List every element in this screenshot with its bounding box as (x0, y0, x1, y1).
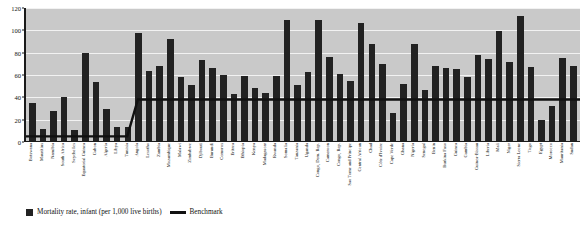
x-label-slot: Tanzania (290, 143, 301, 201)
chart-legend: Mortality rate, infant (per 1,000 live b… (26, 208, 223, 216)
x-axis-tick-label: Sierra Leone (516, 143, 521, 167)
x-label-slot: Benin (428, 143, 439, 201)
x-label-slot: Tunisia (120, 143, 131, 201)
x-axis-tick-label: Sao Tome and Principe (346, 143, 351, 186)
x-label-slot: Comoros (216, 143, 227, 201)
bar-slot (557, 8, 568, 142)
x-axis-tick-label: Equatorial Guinea (81, 143, 86, 177)
bar-slot (504, 8, 515, 142)
bar (103, 109, 110, 143)
bar-slot (356, 8, 367, 142)
x-label-slot: Sao Tome and Principe (343, 143, 354, 201)
x-label-slot: Algeria (99, 143, 110, 201)
x-label-slot: Burundi (205, 143, 216, 201)
x-axis-tick-label: Somalia (282, 143, 287, 158)
bar-slot (473, 8, 484, 142)
bar-slot (462, 8, 473, 142)
x-axis-tick-label: Botswana (28, 143, 33, 161)
x-label-slot: Niger (502, 143, 513, 201)
bar (315, 20, 322, 142)
bar (156, 66, 163, 142)
bar (432, 66, 439, 142)
bar (443, 68, 450, 142)
bar-slot (207, 8, 218, 142)
bar (262, 93, 269, 142)
bar (326, 57, 333, 142)
bar-slot (112, 8, 123, 142)
x-label-slot: Sierra Leone (513, 143, 524, 201)
bar-slot (282, 8, 293, 142)
x-label-slot: Eritrea (227, 143, 238, 201)
y-axis-tick-label: 20 (15, 116, 22, 123)
bar (178, 77, 185, 142)
x-label-slot: Gambia (460, 143, 471, 201)
x-axis-tick-label: Djibouti (198, 143, 203, 158)
bar-slot (420, 8, 431, 142)
bar (358, 23, 365, 142)
bar-slot (313, 8, 324, 142)
x-label-slot: Seychelles (67, 143, 78, 201)
x-label-slot: Malawi (174, 143, 185, 201)
bar-slot (80, 8, 91, 142)
bar-slot (69, 8, 80, 142)
bar-slot (59, 8, 70, 142)
legend-item-series: Mortality rate, infant (per 1,000 live b… (26, 208, 162, 216)
bar (241, 76, 248, 142)
bar-slot (250, 8, 261, 142)
bar (50, 111, 57, 142)
plot-area (24, 8, 580, 142)
bar (231, 94, 238, 142)
x-axis-tick-label: Gambia (463, 143, 468, 158)
x-axis-tick-label: Liberia (484, 143, 489, 156)
x-label-slot: Madagascar (258, 143, 269, 201)
x-axis-tick-label: Madagascar (261, 143, 266, 165)
bar (475, 55, 482, 142)
bar (135, 33, 142, 142)
x-axis-tick-label: Morocco (548, 143, 553, 160)
bar (93, 82, 100, 142)
bar-slot (165, 8, 176, 142)
x-label-slot: Senegal (418, 143, 429, 201)
x-label-slot: Zimbabwe (184, 143, 195, 201)
x-label-slot: Mauritius (36, 143, 47, 201)
x-label-slot: Lesotho (142, 143, 153, 201)
bar (528, 67, 535, 142)
bar-slot (324, 8, 335, 142)
x-label-slot: South Africa (57, 143, 68, 201)
x-label-slot: Egypt (534, 143, 545, 201)
x-label-slot: Kenya (248, 143, 259, 201)
x-axis-tick-label: Chad (367, 143, 372, 153)
x-axis-tick-label: Zambia (155, 143, 160, 157)
x-axis-tick-label: Angola (134, 143, 139, 157)
bar-slot (292, 8, 303, 142)
x-axis-tick-label: Congo, Rep. (335, 143, 340, 166)
bar (559, 58, 566, 142)
y-axis-tick-label: 100 (11, 27, 21, 34)
y-axis-tick-label: 40 (15, 94, 22, 101)
x-label-slot: Côte d'Ivoire (375, 143, 386, 201)
x-axis-tick-label: Sudan (569, 143, 574, 154)
x-axis-tick-label: South Africa (60, 143, 65, 166)
bar (273, 76, 280, 142)
x-label-slot: Morocco (545, 143, 556, 201)
x-label-slot: Cape Verde (386, 143, 397, 201)
bar (40, 129, 47, 142)
bar (188, 85, 195, 142)
x-axis-tick-label: Togo (526, 143, 531, 152)
bar-slot (239, 8, 250, 142)
bar-slot (547, 8, 558, 142)
x-axis-tick-label: Guinea (452, 143, 457, 156)
bar-slot (526, 8, 537, 142)
bar-slot (483, 8, 494, 142)
bar (411, 44, 418, 142)
bar-slot (101, 8, 112, 142)
x-axis-tick-label: Malawi (176, 143, 181, 157)
bar-slot (48, 8, 59, 142)
bar-slot (536, 8, 547, 142)
x-label-slot: Burkina Faso (439, 143, 450, 201)
x-axis-tick-label: Côte d'Ivoire (378, 143, 383, 167)
bar (29, 103, 36, 142)
bar-slot (335, 8, 346, 142)
bar-slot (218, 8, 229, 142)
bar (199, 60, 206, 142)
